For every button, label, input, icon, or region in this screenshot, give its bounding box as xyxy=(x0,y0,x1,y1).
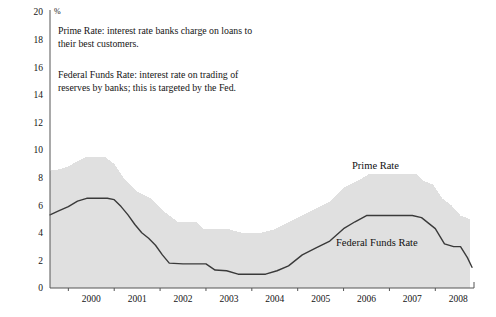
x-tick-2006: 2006 xyxy=(357,294,376,304)
prime-rate-series-label: Prime Rate xyxy=(352,160,399,171)
y-axis-unit-label: % xyxy=(54,7,61,16)
x-tick-2004: 2004 xyxy=(265,294,284,304)
y-tick-8: 8 xyxy=(38,173,43,183)
x-tick-2001: 2001 xyxy=(128,294,147,304)
y-tick-18: 18 xyxy=(34,35,44,45)
x-tick-2008: 2008 xyxy=(449,294,468,304)
y-tick-0: 0 xyxy=(38,283,43,293)
y-tick-12: 12 xyxy=(34,118,44,128)
y-tick-10: 10 xyxy=(34,145,44,155)
y-tick-20: 20 xyxy=(34,7,44,17)
federal-funds-rate-annotation: Federal Funds Rate: interest rate on tra… xyxy=(58,68,318,94)
x-tick-2000: 2000 xyxy=(82,294,101,304)
y-tick-14: 14 xyxy=(34,90,44,100)
y-tick-2: 2 xyxy=(38,256,43,266)
x-tick-2005: 2005 xyxy=(311,294,330,304)
y-tick-16: 16 xyxy=(34,63,44,73)
chart-figure: 02468101214161820 2000200120022003200420… xyxy=(0,0,496,317)
federal-funds-rate-series-label: Federal Funds Rate xyxy=(336,237,418,248)
y-tick-6: 6 xyxy=(38,201,43,211)
x-tick-2003: 2003 xyxy=(219,294,238,304)
x-tick-2007: 2007 xyxy=(403,294,422,304)
y-tick-4: 4 xyxy=(38,228,43,238)
x-tick-2002: 2002 xyxy=(174,294,193,304)
prime-rate-annotation: Prime Rate: interest rate banks charge o… xyxy=(58,24,318,50)
